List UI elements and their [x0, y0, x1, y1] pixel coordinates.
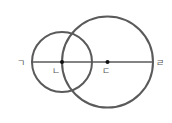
label-d: ㄷ [102, 66, 110, 76]
point-d [106, 60, 110, 64]
point-n [60, 60, 64, 64]
two-circles-diagram: ㄱ ㄴ ㄷ ㄹ [0, 0, 172, 123]
label-n: ㄴ [52, 66, 60, 76]
label-g: ㄱ [17, 58, 25, 68]
label-r: ㄹ [156, 58, 164, 68]
